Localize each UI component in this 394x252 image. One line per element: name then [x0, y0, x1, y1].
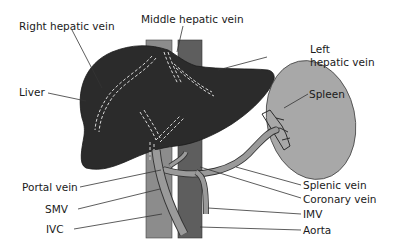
label-coronary-vein: Coronary vein — [303, 193, 376, 205]
liver-shape — [80, 46, 274, 170]
label-ivc: IVC — [46, 223, 64, 235]
label-right-hepatic-vein: Right hepatic vein — [19, 20, 115, 32]
label-imv: IMV — [303, 208, 322, 220]
label-liver: Liver — [19, 86, 45, 98]
label-smv: SMV — [45, 203, 68, 215]
label-middle-hepatic-vein: Middle hepatic vein — [141, 13, 244, 25]
label-left-hepatic-vein-line2: hepatic vein — [310, 56, 375, 68]
label-left-hepatic-vein-line1: Left — [310, 43, 330, 55]
label-splenic-vein: Splenic vein — [303, 179, 367, 191]
label-portal-vein: Portal vein — [22, 181, 78, 193]
hepatic-portal-diagram: Right hepatic vein Middle hepatic vein L… — [0, 0, 394, 252]
label-spleen: Spleen — [309, 88, 345, 100]
label-aorta: Aorta — [303, 224, 331, 236]
